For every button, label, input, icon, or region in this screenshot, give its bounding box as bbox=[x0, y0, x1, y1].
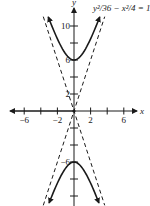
y-tick-label: −6 bbox=[60, 157, 70, 167]
x-tick-label: 6 bbox=[122, 115, 127, 125]
axes bbox=[10, 8, 137, 206]
y-tick-label: 6 bbox=[66, 55, 71, 65]
y-axis-label: y bbox=[71, 0, 76, 7]
x-tick-label: 2 bbox=[88, 115, 93, 125]
equation-label: y²/36 − x²/4 = 1 bbox=[92, 3, 150, 13]
x-tick-label: −6 bbox=[19, 115, 29, 125]
origin-dot bbox=[72, 109, 75, 112]
x-axis-label: x bbox=[139, 106, 144, 116]
x-tick-label: −2 bbox=[53, 115, 63, 125]
hyperbola-plot: −6−2261062−6 x y y²/36 − x²/4 = 1 bbox=[0, 0, 150, 206]
y-tick-label: 2 bbox=[66, 89, 71, 99]
y-tick-label: 10 bbox=[61, 21, 71, 31]
